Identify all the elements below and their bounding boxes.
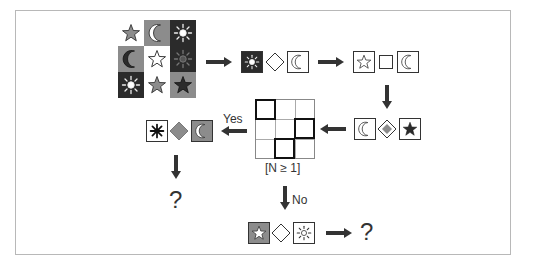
- arrow-down-icon: [280, 186, 290, 210]
- grid-cell-star: [118, 20, 144, 46]
- star-box: [399, 118, 421, 140]
- moon-icon: [194, 123, 210, 139]
- sun-icon: [244, 54, 260, 70]
- sun-icon: [121, 75, 141, 95]
- moon-box: [191, 120, 213, 142]
- star-icon: [356, 54, 372, 70]
- grid-cell-moon: [144, 20, 170, 46]
- arrow-right-icon: [206, 57, 232, 67]
- moon-icon: [290, 54, 306, 70]
- star-icon: [147, 75, 167, 95]
- condition-grid: [255, 99, 315, 159]
- source-grid: [118, 20, 196, 98]
- grid-cell-star: [144, 72, 170, 98]
- highlighted-cell: [274, 138, 295, 159]
- grid-cell-sun: [170, 46, 196, 72]
- moon-box: [354, 118, 376, 140]
- grid-cell-star: [170, 72, 196, 98]
- diamond-icon: [377, 119, 397, 139]
- moon-icon: [147, 23, 167, 43]
- asterisk-icon: [149, 123, 165, 139]
- arrow-left-icon: [221, 126, 247, 136]
- star-box: [248, 222, 270, 244]
- asterisk-box: [146, 120, 168, 142]
- diamond-icon: [169, 121, 189, 141]
- arrow-left-icon: [320, 124, 346, 134]
- sun-icon: [173, 23, 193, 43]
- star-icon: [251, 225, 267, 241]
- star-icon: [147, 49, 167, 69]
- no-result: ?: [360, 218, 373, 246]
- arrow-down-icon: [171, 155, 181, 179]
- diamond-icon: [265, 52, 285, 72]
- arrow-right-icon: [326, 228, 352, 238]
- grid-cell-sun: [170, 20, 196, 46]
- moon-box: [287, 51, 309, 73]
- highlighted-cell: [255, 99, 276, 120]
- sun-box: [293, 222, 315, 244]
- grid-cell-moon: [118, 46, 144, 72]
- no-label: No: [292, 193, 307, 207]
- star-box: [353, 51, 375, 73]
- grid-cell-star: [144, 46, 170, 72]
- sun-box: [241, 51, 263, 73]
- star-icon: [121, 23, 141, 43]
- highlighted-cell: [294, 118, 315, 139]
- moon-icon: [357, 121, 373, 137]
- arrow-right-icon: [318, 57, 344, 67]
- grid-cell-sun: [118, 72, 144, 98]
- arrow-down-icon: [382, 85, 392, 109]
- star-icon: [402, 121, 418, 137]
- sun-icon: [173, 49, 193, 69]
- yes-result: ?: [169, 186, 182, 214]
- condition-label: [N ≥ 1]: [265, 161, 300, 175]
- moon-icon: [400, 54, 416, 70]
- moon-icon: [121, 49, 141, 69]
- square-icon: [379, 55, 393, 69]
- star-icon: [173, 75, 193, 95]
- moon-box: [397, 51, 419, 73]
- diamond-icon: [271, 223, 291, 243]
- sun-icon: [296, 225, 312, 241]
- yes-label: Yes: [223, 112, 243, 126]
